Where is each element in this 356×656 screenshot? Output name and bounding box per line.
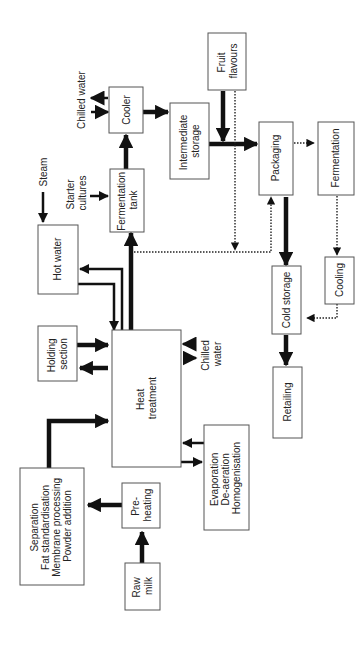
node-separation: Separation Fat standardisation Membrane … (20, 468, 84, 585)
node-raw-milk: Raw milk (125, 563, 160, 610)
node-fermentation-tank: Fermentation tank (110, 169, 144, 232)
node-fruit-flavours: Fruit flavours (208, 33, 246, 90)
svg-text:Cold storage: Cold storage (281, 271, 292, 328)
svg-text:Evaporation De-aeration: Evaporation De-aeration Homogenisation (209, 442, 242, 514)
node-fermentation: Fermentation (318, 122, 354, 195)
svg-text:Hot water: Hot water (52, 237, 63, 280)
process-flow-diagram: Raw milk Pre- heating Separation Fat sta… (0, 0, 356, 656)
label-chilled-water-top: Chilled water (76, 70, 87, 128)
node-cooler: Cooler (109, 87, 143, 133)
svg-text:Cooler: Cooler (121, 95, 132, 125)
edge-hotwater-heat (78, 284, 114, 330)
edge-separation-heat (49, 421, 108, 468)
node-evaporation: Evaporation De-aeration Homogenisation (204, 425, 249, 530)
node-preheating: Pre- heating (122, 483, 160, 528)
svg-text:Retailing: Retailing (282, 383, 293, 422)
node-hot-water: Hot water (38, 225, 78, 294)
node-holding-section: Holding section (38, 326, 77, 381)
label-chilled-water-mid: Chilled water (200, 337, 223, 370)
node-retailing: Retailing (273, 367, 302, 438)
svg-text:Fermentation: Fermentation (330, 129, 341, 188)
edge-cooling-coldstorage (307, 304, 337, 318)
node-cold-storage: Cold storage (272, 266, 301, 334)
label-starter-cultures: Starter cultures (65, 175, 88, 210)
node-intermediate-storage: Intermediate storage (170, 103, 209, 179)
node-cooling: Cooling (325, 257, 354, 304)
svg-text:Raw milk: Raw milk (131, 575, 154, 598)
node-packaging: Packaging (259, 122, 293, 195)
label-steam: Steam (38, 158, 49, 187)
svg-text:Cooling: Cooling (334, 263, 345, 297)
node-heat-treatment: Heat treatment (112, 330, 181, 467)
svg-text:Holding section: Holding section (46, 336, 69, 373)
edge-heat-packaging-dotted (134, 197, 271, 252)
edge-heat-hotwater (80, 269, 122, 330)
svg-text:Packaging: Packaging (270, 135, 281, 182)
